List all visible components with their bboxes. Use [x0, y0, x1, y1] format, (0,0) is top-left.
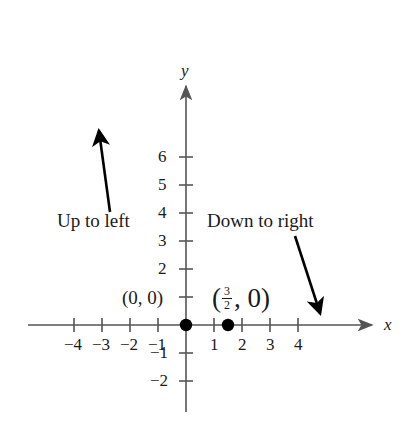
point-label-origin: (0, 0) — [122, 288, 163, 307]
fraction-numerator: 3 — [222, 285, 232, 298]
point-origin — [180, 319, 192, 331]
x-tick-label-3: 3 — [266, 336, 275, 353]
x-tick-label-2: 2 — [238, 336, 247, 353]
x-tick-label-neg2: −2 — [120, 336, 138, 353]
y-tick-label-6: 6 — [158, 148, 167, 165]
annotation-up-to-left: Up to left — [57, 211, 130, 230]
x-tick-label-neg4: −4 — [64, 336, 82, 353]
y-tick-label-neg1: −1 — [150, 344, 168, 361]
x-axis-name: x — [384, 316, 392, 333]
point-label-three-halves: ( 3 2 , 0) — [212, 285, 270, 311]
annotation-down-to-right: Down to right — [207, 211, 314, 230]
point-three-halves — [222, 319, 234, 331]
fraction-three-halves: 3 2 — [222, 285, 232, 311]
x-tick-label-4: 4 — [294, 336, 303, 353]
y-tick-label-2: 2 — [158, 260, 167, 277]
down-to-right-arrow — [295, 236, 320, 313]
y-tick-label-3: 3 — [158, 232, 167, 249]
paren-close-and-zero: , 0) — [234, 287, 270, 310]
x-tick-label-1: 1 — [210, 336, 219, 353]
fraction-denominator: 2 — [222, 298, 232, 312]
y-tick-label-4: 4 — [158, 204, 167, 221]
y-axis-name: y — [181, 62, 189, 79]
paren-open: ( — [212, 287, 221, 310]
x-tick-label-neg3: −3 — [92, 336, 110, 353]
up-to-left-arrow — [99, 131, 110, 212]
y-tick-label-neg2: −2 — [150, 372, 168, 389]
coordinate-plane-figure: x y −4 −3 −2 −1 1 2 3 4 6 5 4 3 2 −1 −2 … — [0, 0, 408, 435]
y-tick-label-5: 5 — [158, 176, 167, 193]
